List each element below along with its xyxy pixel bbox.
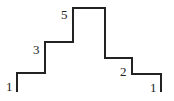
step-diagram: 1 3 5 2 1	[0, 0, 174, 101]
step-label-1: 1	[6, 79, 13, 94]
step-label-2: 3	[33, 42, 40, 57]
step-label-4: 2	[120, 64, 127, 79]
step-label-5: 1	[150, 80, 157, 95]
step-label-3: 5	[61, 7, 68, 22]
